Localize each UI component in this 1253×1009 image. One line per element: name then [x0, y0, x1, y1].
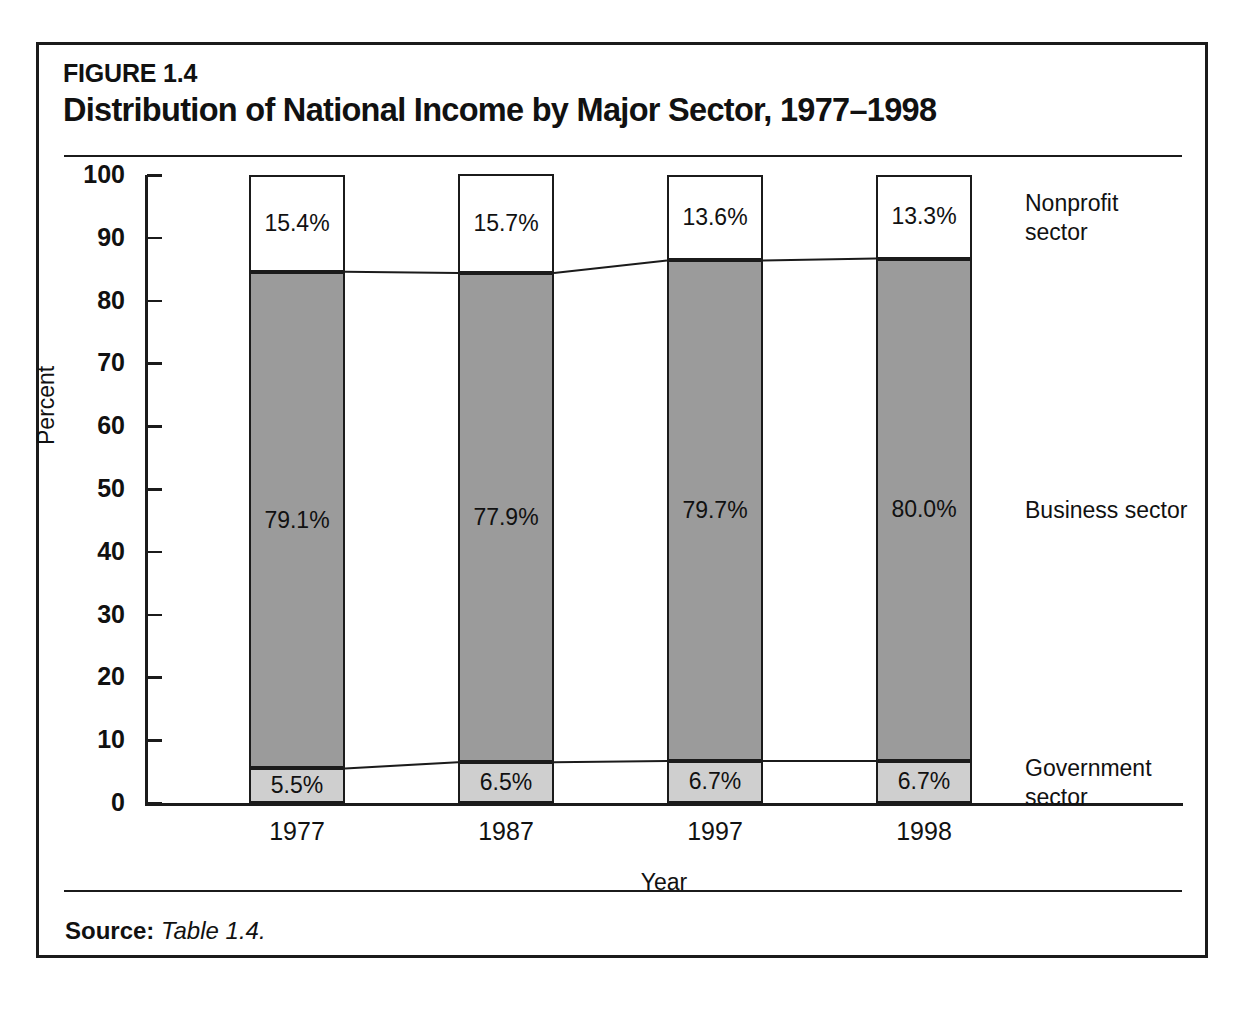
source-label: Source:	[65, 917, 154, 944]
legend-label-line: Nonprofit	[1025, 189, 1225, 218]
legend-entry: Governmentsector	[1025, 754, 1225, 812]
x-axis-tick-label-1998: 1998	[824, 817, 1024, 846]
source-divider	[64, 890, 1182, 892]
x-axis-tick-label-1997: 1997	[615, 817, 815, 846]
stacked-bar-chart: Percent 0102030405060708090100 5.5%79.1%…	[39, 45, 1211, 961]
legend-label-line: sector	[1025, 218, 1225, 247]
legend-entry: Nonprofitsector	[1025, 189, 1225, 247]
legend-label-line: Business sector	[1025, 496, 1225, 525]
x-axis-tick-label-1987: 1987	[406, 817, 606, 846]
legend-label-line: Government	[1025, 754, 1225, 783]
legend-entry: Business sector	[1025, 496, 1225, 525]
x-axis-tick-label-1977: 1977	[197, 817, 397, 846]
legend-label-line: sector	[1025, 783, 1225, 812]
source-note: Source: Table 1.4.	[65, 917, 266, 945]
figure-frame: FIGURE 1.4 Distribution of National Inco…	[36, 42, 1208, 958]
source-value: Table 1.4.	[161, 917, 266, 944]
